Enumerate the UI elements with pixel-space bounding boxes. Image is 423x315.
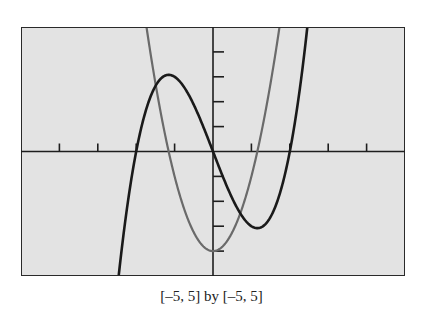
plot-area: [0, 0, 423, 315]
window-caption: [–5, 5] by [–5, 5]: [0, 288, 423, 305]
